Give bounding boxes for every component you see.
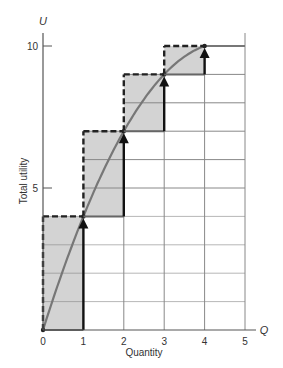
- x-tick-label: 3: [161, 336, 167, 347]
- x-axis-label: Quantity: [125, 347, 162, 358]
- x-axis-symbol: Q: [260, 324, 269, 336]
- y-tick-label: 10: [27, 41, 39, 52]
- y-axis-label: Total utility: [18, 158, 29, 205]
- x-tick-label: 1: [81, 336, 87, 347]
- y-axis-symbol: U: [39, 15, 47, 27]
- y-tick-label: 5: [32, 183, 38, 194]
- x-tick-label: 4: [202, 336, 208, 347]
- total-utility-chart: U Q Quantity Total utility 012345510: [0, 0, 283, 368]
- x-tick-label: 0: [40, 336, 46, 347]
- x-tick-label: 5: [242, 336, 248, 347]
- x-tick-label: 2: [121, 336, 127, 347]
- utility-point: [202, 44, 206, 48]
- shade-bar: [164, 46, 204, 74]
